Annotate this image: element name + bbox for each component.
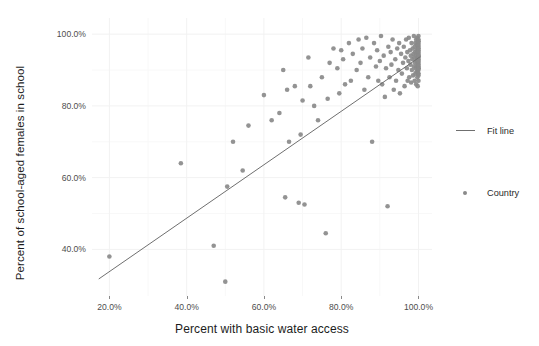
data-point [416,66,421,71]
fit-line [99,57,421,279]
data-point [416,39,421,44]
data-point [384,66,389,71]
x-tick-label: 40.0% [157,302,217,312]
data-point [399,52,404,57]
data-point [388,50,393,55]
data-point [211,243,216,248]
data-point [416,71,421,76]
legend-label-country: Country [487,188,519,198]
data-point [383,95,388,100]
data-point [350,52,355,57]
data-point [378,59,383,64]
data-point [306,55,311,60]
data-point [349,78,354,83]
data-point [225,184,230,189]
data-point [370,139,375,144]
data-point [397,41,402,46]
data-point [358,61,363,66]
data-point [372,41,377,46]
data-point [415,84,420,89]
data-point [277,111,282,116]
data-point [283,195,288,200]
x-tick-label: 60.0% [234,302,294,312]
x-tick-mark [264,296,265,299]
legend-item-fit-line[interactable]: Fit line [455,122,514,140]
data-point [402,84,407,89]
data-point [269,118,274,123]
data-point [325,96,330,101]
data-point [335,66,340,71]
data-point [285,87,290,92]
data-point [312,104,317,109]
data-point [364,35,369,40]
data-point [401,44,406,49]
data-point [240,168,245,173]
data-point [320,75,325,80]
data-point [360,46,365,51]
data-point [374,64,379,69]
data-point [416,46,421,51]
data-point [400,71,405,76]
x-tick-label: 20.0% [79,302,139,312]
data-point [341,57,346,62]
data-point [231,139,236,144]
data-point [302,202,307,207]
scatter-plot-figure: Percent of school-aged females in school… [0,0,539,346]
legend-label-fit-line: Fit line [487,126,514,136]
data-point [298,132,303,137]
data-point [403,55,408,60]
data-point [331,46,336,51]
data-point [262,93,267,98]
data-point [316,118,321,123]
data-point [223,279,228,284]
data-point [391,87,396,92]
data-point [339,48,344,53]
data-point [308,84,313,89]
plot-panel [92,18,432,296]
data-point [401,61,406,66]
data-point [246,123,251,128]
data-point [389,62,394,67]
legend-item-country[interactable]: Country [455,184,519,202]
x-tick-mark [109,296,110,299]
data-point [179,161,184,166]
data-point [107,254,112,259]
data-point [337,91,342,96]
data-point [375,48,380,53]
x-tick-mark [187,296,188,299]
data-point [390,37,395,42]
data-point [416,78,421,83]
data-point [296,200,301,205]
data-point [381,53,386,58]
data-point [323,231,328,236]
data-point [386,44,391,49]
data-point [376,78,381,83]
data-point [354,68,359,73]
x-tick-label: 100.0% [388,302,448,312]
data-point [300,98,305,103]
data-point [366,75,371,80]
data-point [368,55,373,60]
data-point [347,41,352,46]
data-point [394,78,399,83]
data-point [362,87,367,92]
x-tick-label: 80.0% [311,302,371,312]
fit-line-key-icon [455,122,477,140]
x-tick-mark [341,296,342,299]
plot-canvas [92,18,432,296]
data-point [398,91,403,96]
data-point [343,82,348,87]
data-point [356,37,361,42]
data-point [293,84,298,89]
data-point [379,34,384,39]
data-point [407,35,412,40]
data-point [385,204,390,209]
data-point [393,57,398,62]
country-dot-key-icon [455,184,477,202]
data-point [395,46,400,51]
x-tick-mark [418,296,419,299]
data-point [281,68,286,73]
data-point [327,61,332,66]
data-point [287,139,292,144]
